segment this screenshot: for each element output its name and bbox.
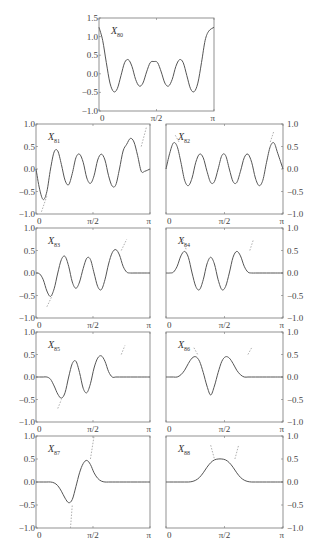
x-tick-label: π (146, 216, 151, 226)
solid-curve (36, 460, 150, 502)
x-tick-label: π (146, 530, 151, 540)
y-tick-label: −0.5 (82, 87, 99, 97)
y-tick-label: 1.0 (24, 431, 36, 441)
y-tick-label: −1.0 (287, 523, 304, 533)
dashed-curve (270, 131, 274, 142)
x-tick-label: 0 (167, 424, 172, 434)
y-tick-label: 1.0 (287, 431, 299, 441)
y-tick-label: 1.0 (24, 223, 36, 233)
dashed-curve (121, 239, 126, 250)
y-tick-label: 1.0 (287, 327, 299, 337)
solid-curve (166, 357, 283, 395)
x-tick-label: π/2 (87, 216, 99, 226)
x-tick-label: π/2 (87, 320, 99, 330)
plot-84: −1.0−0.50.00.51.00π/2πX84 (166, 223, 304, 330)
dashed-curve (141, 126, 146, 146)
dashed-curve (90, 436, 94, 459)
plot-label: X86 (177, 339, 190, 352)
y-tick-label: 0.0 (24, 372, 36, 382)
x-tick-label: 0 (37, 320, 42, 330)
plot-label: X87 (47, 443, 60, 456)
y-tick-label: −0.5 (19, 395, 36, 405)
dashed-curve (211, 445, 215, 459)
dashed-curve (248, 348, 252, 355)
x-tick-label: π/2 (219, 530, 231, 540)
x-tick-label: π/2 (219, 216, 231, 226)
x-tick-label: π (210, 113, 215, 123)
plot-82: −1.0−0.50.00.51.00π/2πX82 (166, 119, 304, 226)
y-tick-label: 1.5 (87, 13, 99, 23)
x-tick-label: π/2 (87, 424, 99, 434)
x-tick-label: π (146, 424, 151, 434)
plot-87: −1.0−0.50.00.51.00π/2πX87 (19, 431, 152, 540)
y-tick-label: −0.5 (287, 291, 304, 301)
y-tick-label: −0.5 (287, 500, 304, 510)
y-tick-label: 1.0 (87, 32, 99, 42)
x-tick-label: π/2 (219, 424, 231, 434)
y-tick-label: 0.0 (87, 69, 99, 79)
plot-83: −1.0−0.50.00.51.00π/2πX83 (19, 223, 152, 330)
plot-81: −1.0−0.50.00.51.00π/2πX81 (19, 119, 152, 226)
y-tick-label: 0.0 (287, 372, 299, 382)
y-tick-label: 0.5 (87, 50, 99, 60)
x-tick-label: π (279, 216, 284, 226)
plot-label: X82 (177, 131, 190, 144)
y-tick-label: −1.0 (19, 523, 36, 533)
solid-curve (36, 356, 150, 398)
y-tick-label: 0.5 (287, 454, 299, 464)
plot-grid: −1.0−0.50.00.51.01.50π/2πX80−1.0−0.50.00… (0, 0, 316, 556)
dashed-curve (58, 400, 62, 409)
x-tick-label: 0 (100, 113, 105, 123)
x-tick-label: π (146, 320, 151, 330)
x-tick-label: 0 (37, 530, 42, 540)
y-tick-label: 0.0 (24, 164, 36, 174)
y-tick-label: −0.5 (19, 291, 36, 301)
y-tick-label: 0.5 (24, 142, 36, 152)
y-tick-label: −1.0 (287, 417, 304, 427)
y-tick-label: 0.5 (287, 350, 299, 360)
plot-80: −1.0−0.50.00.51.01.50π/2πX80 (82, 13, 216, 123)
x-tick-label: π (279, 320, 284, 330)
plot-85: −1.0−0.50.00.51.00π/2πX85 (19, 327, 152, 434)
plot-label: X83 (47, 235, 60, 248)
x-tick-label: π/2 (219, 320, 231, 330)
solid-curve (166, 143, 283, 186)
x-tick-label: π (279, 530, 284, 540)
dashed-curve (194, 348, 198, 355)
y-tick-label: −1.0 (287, 209, 304, 219)
y-tick-label: −1.0 (82, 106, 99, 116)
y-tick-label: 1.0 (24, 119, 36, 129)
solid-curve (36, 138, 150, 199)
y-tick-label: 0.5 (24, 454, 36, 464)
dashed-curve (47, 296, 52, 307)
x-tick-label: 0 (167, 320, 172, 330)
y-tick-label: 1.0 (287, 223, 299, 233)
y-tick-label: −0.5 (287, 187, 304, 197)
y-tick-label: 0.0 (24, 477, 36, 487)
y-tick-label: −0.5 (19, 500, 36, 510)
y-tick-label: −1.0 (19, 313, 36, 323)
y-tick-label: −1.0 (287, 313, 304, 323)
y-tick-label: 0.5 (24, 350, 36, 360)
y-tick-label: 1.0 (287, 119, 299, 129)
solid-curve (36, 250, 150, 297)
plot-86: −1.0−0.50.00.51.00π/2πX86 (166, 327, 304, 434)
plot-label: X84 (177, 235, 190, 248)
dashed-curve (250, 239, 254, 250)
plot-label: X85 (47, 339, 60, 352)
y-tick-label: 0.5 (287, 246, 299, 256)
y-tick-label: −0.5 (287, 395, 304, 405)
x-tick-label: 0 (37, 424, 42, 434)
x-tick-label: π (279, 424, 284, 434)
y-tick-label: 0.0 (287, 164, 299, 174)
x-tick-label: 0 (37, 216, 42, 226)
plot-label: X80 (110, 25, 123, 38)
plot-label: X81 (47, 131, 60, 144)
plot-label: X88 (177, 443, 190, 456)
chart-canvas: −1.0−0.50.00.51.01.50π/2πX80−1.0−0.50.00… (0, 0, 316, 556)
y-tick-label: 0.0 (24, 268, 36, 278)
y-tick-label: −0.5 (19, 187, 36, 197)
dashed-curve (235, 445, 239, 459)
y-tick-label: 0.0 (287, 268, 299, 278)
x-tick-label: 0 (167, 216, 172, 226)
